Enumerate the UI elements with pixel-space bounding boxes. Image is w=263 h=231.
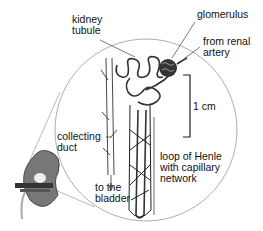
nephron-diagram: kidney tubule glomerulus from renal arte… [0, 0, 263, 231]
label-scale: 1 cm [193, 101, 216, 112]
label-glomerulus: glomerulus [197, 9, 248, 20]
label-from-renal-artery: from renal artery [203, 36, 250, 58]
scale-bar [183, 75, 190, 137]
label-kidney-tubule: kidney tubule [72, 14, 102, 36]
label-collecting-duct: collecting duct [57, 131, 101, 153]
zoom-leader-top [30, 92, 60, 160]
glomerulus-drawing [159, 58, 187, 77]
collecting-duct [101, 58, 117, 190]
kidney-icon [15, 151, 59, 220]
loop-of-henle [129, 105, 151, 217]
label-loop-of-henle: loop of Henle with capillary network [160, 151, 222, 184]
zoom-leader-bottom [55, 190, 95, 207]
label-to-the-bladder: to the bladder [95, 182, 130, 204]
